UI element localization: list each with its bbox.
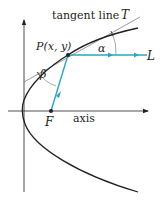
alpha-label: α xyxy=(98,42,106,55)
tangent-line-label: tangent line xyxy=(52,9,119,22)
axis-label: axis xyxy=(73,112,95,125)
ray-F-to-P xyxy=(51,55,68,111)
tangent-symbol-label: T xyxy=(121,8,130,22)
ray-end-label: L xyxy=(146,49,155,63)
ray-arrow-icon xyxy=(134,53,139,58)
ray-arrow-icon xyxy=(108,53,113,58)
parabola-reflection-diagram: tangent line T P(x, y) α β F axis L xyxy=(0,0,166,200)
point-P-label: P(x, y) xyxy=(35,40,71,53)
beta-label: β xyxy=(39,68,46,81)
point-F xyxy=(49,109,53,113)
point-P xyxy=(66,53,70,57)
focus-label: F xyxy=(44,115,54,129)
alpha-angle-arc xyxy=(112,33,116,55)
